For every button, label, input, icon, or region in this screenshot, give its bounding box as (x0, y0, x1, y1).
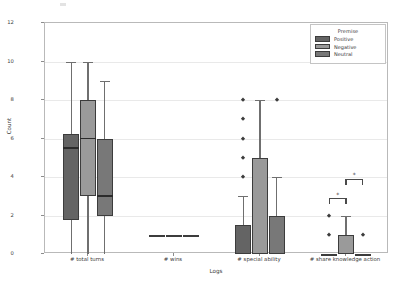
significance-bar (346, 179, 363, 180)
y-tick-label: 4 (0, 176, 14, 182)
whisker-cap-upper (272, 177, 282, 178)
whisker-lower (104, 216, 105, 255)
image-artifact-speck (60, 3, 66, 6)
significance-star: * (353, 172, 356, 178)
median-line (97, 195, 113, 197)
box (80, 100, 96, 196)
whisker-upper (345, 216, 346, 235)
legend-entry-neutral[interactable]: Neutral (315, 51, 381, 57)
x-tick-mark (173, 253, 174, 256)
legend-swatch-icon (315, 51, 330, 57)
y-tick-mark (41, 253, 44, 254)
legend-entry-positive[interactable]: Positive (315, 36, 381, 42)
whisker-upper (104, 81, 105, 139)
whisker-lower (87, 196, 88, 254)
whisker-upper (259, 100, 260, 158)
outlier-point (241, 175, 246, 180)
chart-screenshot: Count Logs 024681012 # total turns# wins… (0, 0, 405, 301)
box (97, 139, 113, 216)
box (183, 235, 199, 237)
outlier-point (327, 232, 332, 237)
whisker-cap-upper (100, 81, 110, 82)
y-tick-label: 6 (0, 138, 14, 144)
median-line (63, 147, 79, 149)
legend-entry-negative[interactable]: Negative (315, 44, 381, 50)
outlier-point (274, 98, 279, 103)
outlier-point (360, 232, 365, 237)
significance-tick (345, 179, 346, 185)
whisker-upper (71, 62, 72, 134)
box (355, 254, 371, 256)
whisker-lower (71, 220, 72, 254)
y-tick-label: 10 (0, 61, 14, 67)
legend-title: Premise (315, 28, 381, 34)
significance-star: * (336, 192, 339, 198)
box (166, 235, 182, 237)
significance-tick (329, 198, 330, 204)
whisker-upper (87, 62, 88, 101)
legend-swatch-icon (315, 44, 330, 50)
whisker-cap-upper (238, 196, 248, 197)
legend-entry-label: Positive (334, 36, 353, 42)
box (252, 158, 268, 254)
whisker-cap-upper (341, 216, 351, 217)
gridline (45, 216, 387, 217)
whisker-upper (243, 196, 244, 225)
y-axis-label: Count (6, 118, 12, 135)
x-tick-label: # share knowledge action (310, 256, 380, 262)
whisker-upper (276, 177, 277, 216)
gridline (45, 100, 387, 101)
y-tick-label: 2 (0, 215, 14, 221)
box (269, 216, 285, 255)
y-tick-label: 8 (0, 99, 14, 105)
whisker-cap-upper (83, 62, 93, 63)
outlier-point (241, 136, 246, 141)
significance-tick (345, 198, 346, 204)
box (338, 235, 354, 254)
legend-swatch-icon (315, 36, 330, 42)
x-tick-label: # total turns (70, 256, 104, 262)
significance-tick (362, 179, 363, 185)
legend: Premise PositiveNegativeNeutral (310, 24, 386, 64)
box (149, 235, 165, 237)
y-tick-label: 0 (0, 253, 14, 259)
outlier-point (241, 155, 246, 160)
x-axis-label: Logs (210, 268, 223, 274)
box (235, 225, 251, 254)
legend-entry-label: Neutral (334, 51, 352, 57)
outlier-point (241, 98, 246, 103)
legend-entry-label: Negative (334, 44, 356, 50)
whisker-cap-upper (255, 100, 265, 101)
x-tick-label: # special ability (237, 256, 280, 262)
legend-entries: PositiveNegativeNeutral (315, 36, 381, 57)
median-line (80, 138, 96, 140)
x-tick-label: # wins (164, 256, 182, 262)
box (321, 254, 337, 256)
y-tick-label: 12 (0, 22, 14, 28)
outlier-point (327, 213, 332, 218)
whisker-cap-upper (66, 62, 76, 63)
outlier-point (241, 117, 246, 122)
significance-bar (329, 198, 346, 199)
